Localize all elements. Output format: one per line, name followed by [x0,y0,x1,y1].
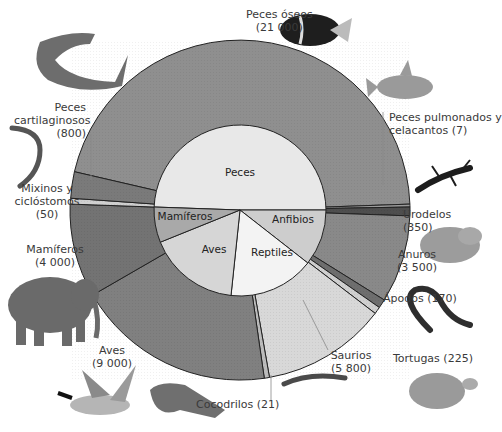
label-saurios: Saurios (5 800) [326,349,376,375]
turtle-illustration [409,373,478,409]
label-urodelos: Urodelos (350) [403,208,451,234]
label-aves: Aves (9 000) [87,344,137,370]
label-mamiferos: Mamíferos (4 000) [20,243,90,269]
salamander-illustration [418,160,470,190]
inner-label-mamiferos: Mamíferos [158,210,213,222]
elephant-illustration [8,277,99,346]
label-anuros: Anuros (3 500) [392,248,442,274]
coelacanth-illustration [366,60,433,99]
inner-label-reptiles: Reptiles [251,246,293,258]
label-tortugas: Tortugas (225) [393,352,473,365]
lizard-illustration [284,376,345,384]
label-peces-cartilaginosos: Peces cartilaginosos (800) [14,101,86,140]
shark-illustration [36,33,128,90]
label-peces-oseos: Peces óseos (21 000) [246,8,313,34]
label-cocodrilos: Cocodrilos (21) [196,398,279,411]
inner-label-aves: Aves [202,243,227,255]
inner-label-peces: Peces [225,166,255,178]
label-peces-pulmonados: Peces pulmonados y celacantos (7) [389,111,502,137]
label-apodos: Ápodos (170) [383,292,457,305]
label-mixinos: Mixinos y ciclóstomos (50) [12,182,82,221]
inner-label-anfibios: Anfibios [272,213,314,225]
goose-illustration [58,365,136,415]
